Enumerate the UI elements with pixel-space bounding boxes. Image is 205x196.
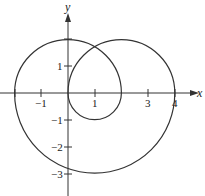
y-tick-label: 1 [57,60,63,72]
y-tick-label: −1 [51,114,63,126]
y-tick-label: −2 [51,141,63,153]
x-axis-label: x [196,86,203,100]
x-tick-label: 1 [92,97,98,109]
x-tick-label: 3 [145,97,151,109]
x-tick-label: −1 [35,97,47,109]
x-tick-label: 4 [172,97,178,109]
y-tick-label: −3 [51,168,63,180]
y-axis-label: y [64,0,71,14]
polar-curve-plot: x y −1 1 3 4 1 −1 −2 −3 [0,0,205,196]
y-axis-arrow-icon [65,13,71,22]
